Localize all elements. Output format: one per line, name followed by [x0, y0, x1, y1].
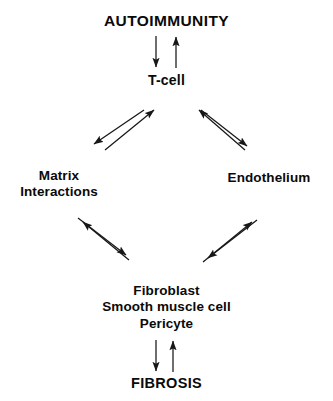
node-autoimmunity: AUTOIMMUNITY [0, 12, 333, 31]
node-autoimmunity-label: AUTOIMMUNITY [0, 12, 333, 31]
node-fibrosis-label: FIBROSIS [0, 375, 333, 393]
arrow-tcell-to-endothelium [201, 110, 247, 146]
node-effector-line-3: Pericyte [0, 316, 333, 332]
node-tcell: T-cell [0, 72, 333, 89]
node-matrix-interactions: Matrix Interactions [8, 168, 110, 201]
node-endothelium: Endothelium [209, 170, 329, 186]
arrow-effector-to-endothelium [203, 222, 252, 262]
node-effector-line-2: Smooth muscle cell [0, 299, 333, 315]
arrow-matrix-to-tcell [105, 110, 154, 150]
node-effector-line-1: Fibroblast [0, 283, 333, 299]
node-matrix-line-1: Matrix [8, 168, 110, 184]
node-matrix-line-2: Interactions [8, 184, 110, 200]
diagram-canvas: AUTOIMMUNITY T-cell Matrix Interactions … [0, 0, 333, 401]
node-tcell-label: T-cell [0, 72, 333, 89]
node-fibrosis: FIBROSIS [0, 375, 333, 393]
node-endothelium-label: Endothelium [209, 170, 329, 186]
arrow-effector-to-matrix [83, 222, 129, 260]
arrow-endothelium-to-tcell [199, 110, 245, 150]
node-effector-cells: Fibroblast Smooth muscle cell Pericyte [0, 283, 333, 332]
